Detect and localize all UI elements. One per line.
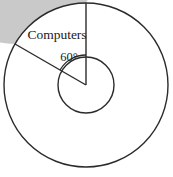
- pie-chart-figure: Computers 60°: [0, 0, 173, 177]
- angle-label-60-degrees: 60°: [60, 50, 78, 64]
- sector-label-computers: Computers: [27, 27, 86, 42]
- pie-chart-svg: Computers 60°: [0, 0, 173, 177]
